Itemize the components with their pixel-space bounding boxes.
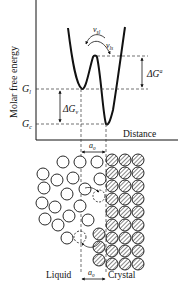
nu-sl-arrow xyxy=(86,35,105,44)
diagram-canvas: Molar free energy Distance Gl Gc ΔGv ΔGa… xyxy=(0,0,187,298)
a0-top-label: a0 xyxy=(89,141,96,151)
nu-ls-label: νls xyxy=(106,41,113,51)
delta-gv-label: ΔGv xyxy=(62,104,78,115)
crystal-level-label: Gc xyxy=(22,118,32,130)
liquid-label: Liquid xyxy=(46,270,72,280)
nu-sl-label: νsl xyxy=(93,25,101,35)
a0-bottom-label: a0 xyxy=(88,268,95,278)
crystal-atoms xyxy=(93,154,144,270)
liquid-level-label: Gl xyxy=(22,83,31,95)
x-axis-label: Distance xyxy=(123,129,156,139)
delta-ga-label: ΔGa xyxy=(146,68,162,79)
y-axis-label: Molar free energy xyxy=(8,46,19,118)
crystal-label: Crystal xyxy=(108,270,136,280)
